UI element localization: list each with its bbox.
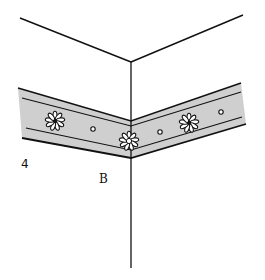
- dot-icon: [219, 110, 223, 114]
- ceiling-lines: [20, 15, 243, 62]
- diagram-drawing: [0, 0, 265, 280]
- dot-icon: [158, 130, 162, 134]
- dot-icon: [91, 127, 95, 131]
- corner-wallpaper-border-diagram: 4 B: [0, 0, 265, 280]
- figure-number-label: 4: [21, 158, 29, 170]
- point-b-label: B: [99, 173, 108, 185]
